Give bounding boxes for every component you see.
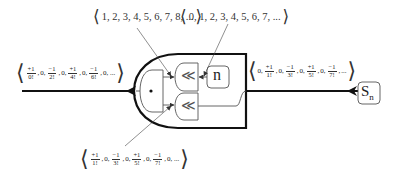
sequence-fraction: −16! bbox=[89, 66, 98, 80]
sequence-fraction: +15! bbox=[307, 64, 316, 78]
sequence-fraction: −13! bbox=[286, 64, 295, 78]
n-label: n bbox=[213, 66, 221, 84]
sequence-fraction: +15! bbox=[132, 152, 141, 166]
sn-label: Sn bbox=[361, 83, 374, 102]
sequence-term: 0, bbox=[320, 67, 325, 75]
sequence-term: 0, ... bbox=[103, 69, 115, 77]
sequence-term: 0, bbox=[104, 155, 109, 163]
shift-bottom-glyph: ≪ bbox=[181, 97, 196, 114]
sequence-fraction: +11! bbox=[265, 64, 274, 78]
sequence-fraction: +10! bbox=[27, 66, 36, 80]
sequence-bottom: ⟨ +11!,0,−13!,0,+15!,0,−17!,0, ... ⟩ bbox=[80, 148, 189, 170]
sequence-fraction: −13! bbox=[112, 152, 121, 166]
sequence-output: ⟨ +10!,0,−12!,0,+14!,0,−16!,0, ... ⟩ bbox=[16, 62, 125, 84]
sequence-term: 0, bbox=[258, 67, 263, 75]
sequence-term: 0, bbox=[40, 69, 45, 77]
multiply-dot-icon bbox=[149, 89, 152, 92]
sequence-fraction: −12! bbox=[48, 66, 57, 80]
sequence-fraction: −17! bbox=[328, 64, 337, 78]
circuit-diagram bbox=[0, 0, 401, 183]
sequence-fraction: +14! bbox=[68, 66, 77, 80]
sn-subscript: n bbox=[369, 92, 374, 102]
shift-bottom-input-wire bbox=[198, 91, 246, 106]
sequence-input: ⟨ 0,+11!,0,−13!,0,+15!,0,−17!,... ⟩ bbox=[248, 60, 356, 82]
sequence-term: 0, bbox=[125, 155, 130, 163]
sequence-term: 0, bbox=[279, 67, 284, 75]
sequence-term: 0, bbox=[61, 69, 66, 77]
sequence-term: 0, bbox=[82, 69, 87, 77]
sequence-term: 0, bbox=[146, 155, 151, 163]
sequence-term: ... bbox=[341, 67, 346, 75]
sequence-fraction: −17! bbox=[153, 152, 162, 166]
shift-top-glyph: ≪ bbox=[181, 67, 196, 84]
sequence-top-right: ⟨ 0, 1, 2, 3, 4, 5, 6, 7, ... ⟩ bbox=[180, 8, 289, 25]
sequence-term: 0, ... bbox=[167, 155, 179, 163]
sequence-term: 0, bbox=[299, 67, 304, 75]
sequence-fraction: +11! bbox=[91, 152, 100, 166]
